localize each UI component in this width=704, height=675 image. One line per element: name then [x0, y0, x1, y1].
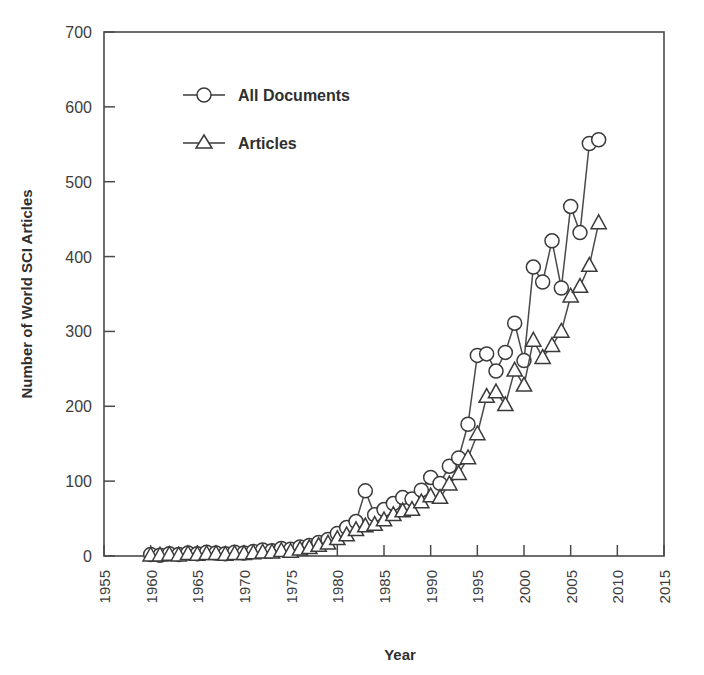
circle-marker	[358, 484, 372, 498]
y-tick-label: 600	[65, 99, 92, 116]
legend-label-articles: Articles	[238, 135, 297, 152]
circle-marker	[564, 199, 578, 213]
x-tick-label: 1990	[423, 570, 440, 603]
circle-marker	[573, 226, 587, 240]
y-tick-label: 500	[65, 174, 92, 191]
circle-marker	[461, 417, 475, 431]
circle-marker	[480, 347, 494, 361]
circle-marker	[554, 281, 568, 295]
y-axis-title: Number of World SCI Articles	[18, 189, 35, 398]
x-tick-label: 1985	[376, 570, 393, 603]
y-tick-label: 400	[65, 249, 92, 266]
chart-figure: 0100200300400500600700 19551960196519701…	[0, 0, 704, 675]
x-tick-label: 1995	[469, 570, 486, 603]
x-axis-title: Year	[384, 646, 416, 663]
circle-marker	[536, 275, 550, 289]
x-tick-label: 1980	[329, 570, 346, 603]
x-tick-label: 1960	[143, 570, 160, 603]
x-tick-label: 1970	[236, 570, 253, 603]
circle-marker	[545, 234, 559, 248]
x-tick-label: 2015	[656, 570, 673, 603]
x-tick-label: 1975	[283, 570, 300, 603]
x-tick-label: 1955	[96, 570, 113, 603]
circle-marker	[592, 133, 606, 147]
circle-marker	[526, 260, 540, 274]
y-tick-label: 200	[65, 398, 92, 415]
circle-marker	[508, 316, 522, 330]
y-tick-label: 300	[65, 323, 92, 340]
x-tick-label: 2000	[516, 570, 533, 603]
y-tick-label: 700	[65, 24, 92, 41]
legend-label-all-documents: All Documents	[238, 87, 350, 104]
chart-canvas: 0100200300400500600700 19551960196519701…	[0, 0, 704, 675]
y-tick-label: 0	[83, 548, 92, 565]
circle-marker	[197, 88, 211, 102]
x-tick-label: 1965	[189, 570, 206, 603]
circle-marker	[498, 345, 512, 359]
legend-item-all-documents: All Documents	[183, 87, 350, 104]
circle-marker	[489, 364, 503, 378]
x-tick-label: 2010	[609, 570, 626, 603]
x-tick-label: 2005	[563, 570, 580, 603]
y-tick-label: 100	[65, 473, 92, 490]
